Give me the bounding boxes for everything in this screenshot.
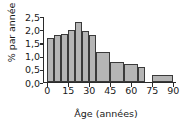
histogram-bar (96, 52, 110, 82)
histogram-bar (75, 22, 82, 81)
y-tick-label: 1,5 (14, 39, 40, 48)
histogram-bar (47, 38, 54, 82)
y-tick-label: 0,5 (14, 65, 40, 74)
x-tick-label: 90 (162, 85, 184, 96)
plot-area (43, 17, 176, 83)
histogram-bar (61, 34, 68, 82)
y-tick-label: 2,0 (14, 26, 40, 35)
x-tick-label: 60 (120, 85, 142, 96)
histogram-bar (138, 67, 145, 81)
histogram-bar (124, 64, 138, 82)
y-tick-label: 2,5 (14, 13, 40, 22)
x-tick-label: 45 (99, 85, 121, 96)
y-tick-mark (40, 83, 43, 84)
histogram-bar (54, 35, 61, 82)
y-axis-tick-labels: 0,00,51,01,52,02,5 (14, 13, 40, 83)
histogram-figure: % par année 0,00,51,01,52,02,5 015304560… (0, 0, 191, 132)
histogram-bar (110, 62, 124, 82)
x-axis-tick-labels: 0153045607590 (43, 85, 183, 98)
x-tick-label: 75 (141, 85, 163, 96)
histogram-bar (152, 75, 173, 82)
x-tick-label: 0 (36, 85, 58, 96)
y-tick-label: 1,0 (14, 52, 40, 61)
histogram-bar (68, 30, 75, 82)
x-tick-label: 30 (78, 85, 100, 96)
histogram-bar (89, 35, 96, 82)
bars-layer (43, 17, 176, 82)
x-tick-label: 15 (57, 85, 79, 96)
histogram-bar (82, 31, 89, 81)
x-axis-title: Âge (années) (36, 108, 176, 119)
